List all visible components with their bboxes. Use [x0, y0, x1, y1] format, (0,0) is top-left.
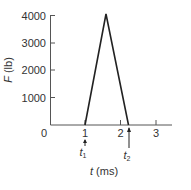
- y-tick-label: 4000: [22, 10, 46, 22]
- x-axis-title: t (ms): [90, 165, 118, 177]
- t1-annotation: t1: [80, 139, 87, 159]
- force-time-chart: 4000 3000 2000 1000 0 1 2 3 t1 t2 t (ms)…: [0, 0, 191, 190]
- force-pulse-line: [85, 14, 129, 125]
- x-tick-label: 0: [41, 127, 47, 139]
- t2-annotation: t2: [124, 127, 131, 162]
- x-tick-label: 3: [153, 127, 159, 139]
- x-ticks: 0 1 2 3: [41, 120, 159, 139]
- y-tick-label: 1000: [22, 92, 46, 104]
- y-axis-title: F (lb): [2, 57, 14, 83]
- y-ticks: 4000 3000 2000 1000: [22, 10, 55, 104]
- t2-label: t2: [124, 149, 131, 162]
- t1-label: t1: [80, 146, 87, 159]
- y-tick-label: 2000: [22, 64, 46, 76]
- x-tick-label: 1: [82, 127, 88, 139]
- x-tick-label: 2: [117, 127, 123, 139]
- y-tick-label: 3000: [22, 37, 46, 49]
